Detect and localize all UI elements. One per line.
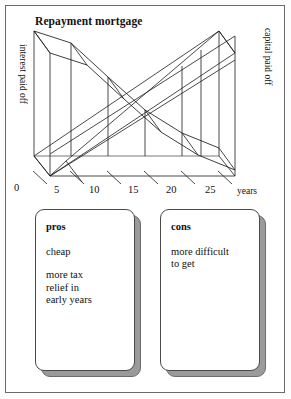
tick-mark-15 — [144, 171, 158, 184]
tick-mark-20 — [181, 171, 195, 184]
pros-card-body: pros cheap more tax relief in early year… — [46, 221, 134, 318]
series-capital-crease-depth — [66, 161, 82, 182]
cons-card: cons more difficult to get — [160, 209, 266, 377]
pros-card-heading: pros — [46, 221, 134, 233]
x-tick-label-20: 20 — [166, 184, 177, 195]
pros-card-item-cheap: cheap — [46, 246, 134, 259]
cons-card-body: cons more difficult to get — [171, 221, 259, 282]
cons-card-item-difficult: more difficult to get — [171, 246, 259, 271]
axis-floor — [34, 156, 235, 176]
tick-mark-10 — [107, 171, 121, 184]
axis-label-interest-paid-off: interest paid off — [18, 44, 28, 104]
series-interest-depth-0 — [34, 31, 50, 53]
chart-svg — [6, 6, 284, 202]
axis-label-capital-paid-off: capital paid off — [263, 28, 273, 85]
series-capital-depth-right — [219, 31, 235, 53]
cons-card-heading: cons — [171, 221, 259, 233]
pros-card-item-tax-relief: more tax relief in early years — [46, 269, 134, 307]
repayment-mortgage-chart: Repayment mortgage interest paid off cap… — [6, 6, 284, 202]
series-interest-depth-15 — [145, 110, 161, 132]
x-tick-label-10: 10 — [89, 184, 100, 195]
tick-mark-0 — [33, 171, 47, 184]
chart-title: Repayment mortgage — [35, 15, 143, 27]
series-interest-depth-5 — [71, 43, 87, 65]
series-interest-top-back — [34, 31, 219, 148]
tick-mark-25 — [218, 171, 232, 184]
x-tick-label-5: 5 — [54, 184, 59, 195]
series-interest-depth-10 — [108, 77, 124, 99]
x-axis-unit-label: years — [237, 186, 257, 196]
x-tick-label-15: 15 — [128, 184, 139, 195]
series-capital-front-upper — [50, 53, 235, 176]
series-capital-crease — [50, 31, 219, 176]
series-capital-depth-left — [34, 156, 50, 176]
series-capital-back-lower — [50, 36, 235, 154]
pros-cons-row: pros cheap more tax relief in early year… — [0, 203, 291, 393]
x-tick-label-0: 0 — [14, 182, 19, 193]
pros-card: pros cheap more tax relief in early year… — [35, 209, 141, 377]
figure-page: Repayment mortgage interest paid off cap… — [0, 0, 291, 399]
series-interest-top-front — [50, 53, 235, 170]
x-tick-label-25: 25 — [205, 184, 216, 195]
series-capital-back-upper — [34, 31, 219, 156]
